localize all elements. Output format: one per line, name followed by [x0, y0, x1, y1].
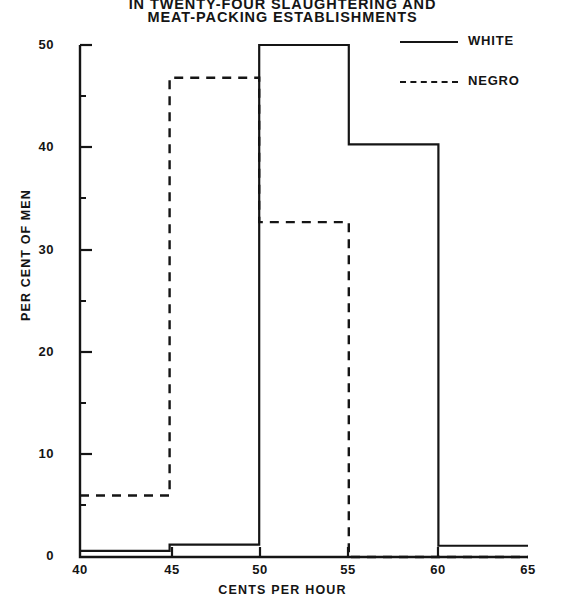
series-white-step-outline: [80, 45, 528, 551]
axis-lines: [80, 45, 528, 557]
chart-plot-area: [0, 0, 565, 611]
chart-figure: IN TWENTY-FOUR SLAUGHTERING AND MEAT-PAC…: [0, 0, 565, 611]
axes: [80, 45, 528, 557]
series-negro-step-outline: [80, 78, 528, 557]
